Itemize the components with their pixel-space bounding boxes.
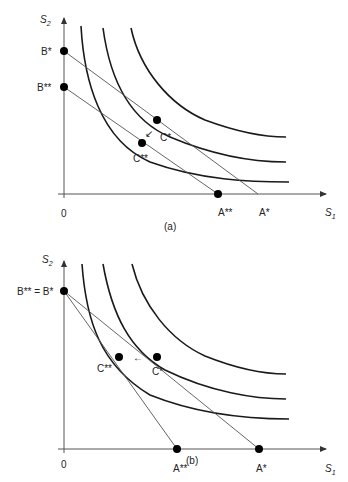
- label-b-equal: B** = B*: [17, 286, 54, 297]
- point-c-star: [153, 116, 161, 124]
- budget-line-star: [64, 51, 258, 194]
- label-c-double-star: C**: [97, 363, 112, 374]
- label-a-star: A*: [259, 207, 270, 218]
- shift-arrow-icon: ←: [133, 352, 143, 363]
- point-b-star: [60, 47, 68, 55]
- label-a-double-star: A**: [218, 207, 233, 218]
- label-b-star: B*: [41, 46, 52, 57]
- point-a-double-star: [173, 445, 181, 453]
- panel-b: ← S2 B** = B* C* C** 0 A** A* S1 (b): [17, 254, 336, 476]
- y-axis-label: S2: [40, 14, 51, 27]
- panel-a-caption: (a): [164, 221, 176, 232]
- diagram-canvas: ↙ S2 B* B** C* C** 0 A** A* S1 (a) ← S2: [0, 0, 348, 482]
- point-c-double-star: [115, 353, 123, 361]
- panel-a: ↙ S2 B* B** C* C** 0 A** A* S1 (a): [37, 14, 336, 232]
- indifference-curve-2: [103, 264, 286, 399]
- label-c-star: C*: [160, 132, 171, 143]
- point-c-double-star: [138, 139, 146, 147]
- point-b-equal: [60, 287, 68, 295]
- indifference-curve-2: [103, 28, 286, 162]
- point-b-double-star: [60, 83, 68, 91]
- panel-b-caption: (b): [186, 455, 198, 466]
- origin-label: 0: [61, 208, 67, 219]
- label-a-star: A*: [256, 463, 267, 474]
- y-axis-label: S2: [42, 254, 53, 267]
- x-axis-label: S1: [325, 207, 336, 220]
- origin-label: 0: [61, 459, 67, 470]
- point-c-star: [153, 353, 161, 361]
- point-a-double-star: [214, 190, 222, 198]
- label-c-double-star: C**: [133, 153, 148, 164]
- point-a-star: [255, 445, 263, 453]
- label-b-double-star: B**: [37, 82, 52, 93]
- shift-arrow-icon: ↙: [145, 128, 153, 139]
- label-c-star: C*: [152, 366, 163, 377]
- indifference-curve-1: [82, 264, 289, 419]
- indifference-curve-1: [81, 26, 289, 182]
- x-axis-label: S1: [325, 463, 336, 476]
